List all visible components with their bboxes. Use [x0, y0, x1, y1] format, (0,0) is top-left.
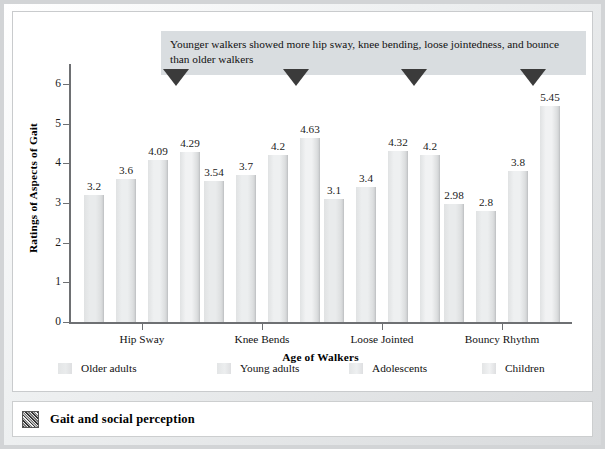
bar-value-label: 4.2: [411, 140, 449, 152]
x-axis-category-label: Bouncy Rhythm: [442, 333, 562, 345]
y-axis-tick-label: 1: [39, 275, 61, 287]
bar: [476, 211, 496, 322]
chart-panel: 0123456 Ratings of Aspects of Gait 3.23.…: [12, 11, 593, 392]
x-axis-category-label: Knee Bends: [202, 333, 322, 345]
x-axis-line: [69, 322, 572, 324]
bar-value-label: 3.7: [227, 160, 265, 172]
x-axis-category-label: Hip Sway: [82, 333, 202, 345]
bar: [540, 106, 560, 322]
bar-value-label: 4.29: [171, 137, 209, 149]
y-axis-tick: [63, 322, 70, 323]
chart-legend: Older adultsYoung adultsAdolescentsChild…: [12, 358, 593, 382]
y-axis-tick: [63, 84, 70, 85]
x-axis-tick: [142, 324, 143, 330]
y-axis-line: [69, 64, 71, 324]
y-axis-tick-label: 5: [39, 117, 61, 129]
bar-value-label: 3.8: [499, 156, 537, 168]
legend-item: Young adults: [217, 362, 299, 374]
bar-value-label: 3.2: [75, 180, 113, 192]
bar: [388, 151, 408, 322]
bar-value-label: 5.45: [531, 91, 569, 103]
y-axis-tick: [63, 124, 70, 125]
legend-item: Adolescents: [349, 362, 427, 374]
y-axis-tick: [63, 243, 70, 244]
y-axis-tick-label: 3: [39, 196, 61, 208]
bar-value-label: 3.1: [315, 184, 353, 196]
bar-value-label: 3.4: [347, 172, 385, 184]
x-axis-tick: [262, 324, 263, 330]
bar: [356, 187, 376, 322]
legend-swatch: [349, 363, 363, 374]
bar: [236, 175, 256, 322]
x-axis-category-label: Loose Jointed: [322, 333, 442, 345]
bar: [148, 160, 168, 322]
x-axis-tick: [382, 324, 383, 330]
down-triangle-marker-icon: [520, 69, 546, 86]
down-triangle-marker-icon: [283, 69, 309, 86]
y-axis-tick: [63, 203, 70, 204]
bar: [116, 179, 136, 322]
y-axis-tick-label: 2: [39, 236, 61, 248]
y-axis-tick: [63, 163, 70, 164]
y-axis-tick-label: 4: [39, 156, 61, 168]
bar-value-label: 3.6: [107, 164, 145, 176]
figure-caption-text: Gait and social perception: [50, 412, 195, 427]
y-axis-tick-label: 6: [39, 77, 61, 89]
legend-label: Young adults: [240, 362, 299, 374]
bar: [84, 195, 104, 322]
legend-item: Older adults: [58, 362, 137, 374]
annotation-text: Younger walkers showed more hip sway, kn…: [170, 38, 559, 65]
legend-item: Children: [482, 362, 545, 374]
bar: [300, 138, 320, 322]
legend-label: Older adults: [81, 362, 137, 374]
bar-value-label: 2.8: [467, 196, 505, 208]
bar: [324, 199, 344, 322]
down-triangle-marker-icon: [163, 69, 189, 86]
legend-swatch: [482, 363, 496, 374]
y-axis-tick: [63, 282, 70, 283]
annotation-callout: Younger walkers showed more hip sway, kn…: [161, 31, 586, 75]
bar: [268, 155, 288, 322]
bar: [204, 181, 224, 322]
y-axis-tick-label: 0: [39, 315, 61, 327]
legend-label: Children: [505, 362, 545, 374]
thumbnail-image-icon: [22, 411, 39, 428]
figure-caption-band: Gait and social perception: [12, 401, 593, 437]
x-axis-tick: [502, 324, 503, 330]
bar-value-label: 4.2: [259, 140, 297, 152]
legend-label: Adolescents: [372, 362, 427, 374]
bar: [508, 171, 528, 322]
y-axis-title: Ratings of Aspects of Gait: [27, 88, 39, 288]
bar: [420, 155, 440, 322]
bar: [444, 204, 464, 322]
bar-value-label: 4.63: [291, 123, 329, 135]
legend-swatch: [58, 363, 72, 374]
legend-swatch: [217, 363, 231, 374]
down-triangle-marker-icon: [401, 69, 427, 86]
figure-frame: 0123456 Ratings of Aspects of Gait 3.23.…: [0, 0, 605, 449]
